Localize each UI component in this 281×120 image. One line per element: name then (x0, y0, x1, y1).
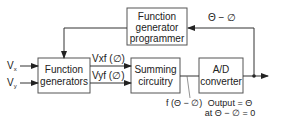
error-leader (187, 76, 190, 98)
ad-converter-block: A/D converter (199, 58, 243, 93)
error-label: f (Θ − ∅) (166, 98, 202, 108)
function-generators-block: Function generators (38, 58, 90, 93)
feedback-label: Θ − ∅ (208, 12, 236, 23)
output-label-1: Output = Θ (208, 98, 252, 108)
svg-text:Vy: Vy (7, 77, 17, 89)
programmer-block: Function generator programmer (127, 8, 187, 45)
vx-sub: x (14, 66, 17, 72)
ad-label-1: A/D (213, 64, 230, 75)
fg-label-1: Function (45, 64, 83, 75)
programmer-label-2: generator (136, 22, 179, 33)
output-label-2: at Θ − ∅ = 0 (205, 108, 256, 118)
summing-label-2: circuitry (138, 76, 172, 87)
summing-block: Summing circuitry (131, 58, 180, 93)
vy-sub: y (14, 83, 17, 89)
input-vx: Vx (7, 60, 38, 72)
summing-label-1: Summing (134, 64, 176, 75)
ad-label-2: converter (200, 76, 242, 87)
fg-label-2: generators (40, 76, 88, 87)
svg-text:Vx: Vx (7, 60, 17, 72)
vxf-label: Vxf (∅) (92, 53, 125, 64)
programmer-label-3: programmer (130, 33, 185, 44)
vyf-label: Vyf (∅) (92, 70, 125, 81)
block-diagram: Function generator programmer Function g… (0, 0, 281, 120)
input-vy: Vy (7, 77, 38, 89)
programmer-label-1: Function (138, 11, 176, 22)
